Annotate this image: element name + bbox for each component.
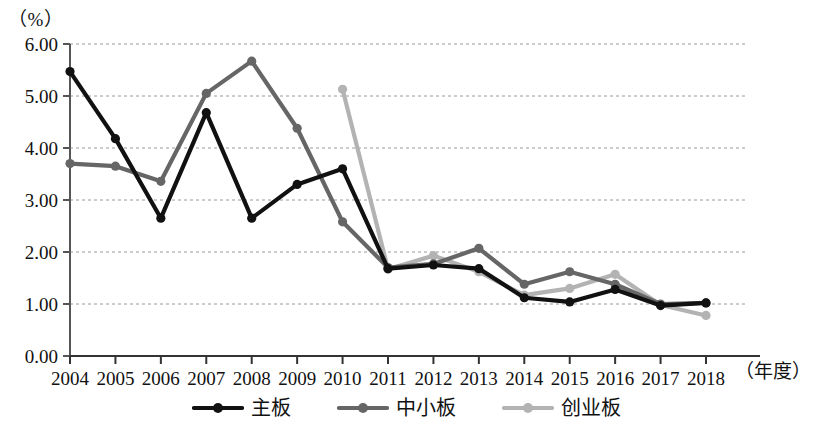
data-point-marker: [293, 124, 302, 133]
x-axis-title: （年度）: [735, 362, 811, 381]
y-tick-label: 4.00: [0, 139, 58, 158]
data-point-marker: [293, 180, 302, 189]
data-point-marker: [338, 85, 347, 94]
data-point-marker: [565, 267, 574, 276]
data-point-marker: [474, 264, 483, 273]
y-tick-label: 6.00: [0, 35, 58, 54]
y-tick-label: 2.00: [0, 243, 58, 262]
y-tick-marks-group: [63, 44, 70, 356]
gridlines-group: [70, 44, 748, 356]
legend-item-2[interactable]: 创业板: [502, 398, 621, 418]
data-point-marker: [429, 260, 438, 269]
plot-area: [0, 0, 813, 429]
data-point-marker: [202, 89, 211, 98]
data-point-marker: [383, 264, 392, 273]
x-tick-label: 2018: [678, 369, 734, 388]
data-point-marker: [565, 284, 574, 293]
y-tick-label: 3.00: [0, 191, 58, 210]
legend-marker-icon: [502, 400, 554, 416]
data-point-marker: [338, 164, 347, 173]
legend-marker-icon: [337, 400, 389, 416]
data-point-marker: [156, 214, 165, 223]
data-point-marker: [520, 293, 529, 302]
data-point-marker: [65, 159, 74, 168]
data-point-marker: [611, 270, 620, 279]
data-point-marker: [338, 217, 347, 226]
data-point-marker: [520, 280, 529, 289]
y-tick-label: 1.00: [0, 295, 58, 314]
data-point-marker: [202, 108, 211, 117]
data-point-marker: [65, 67, 74, 76]
data-point-marker: [565, 297, 574, 306]
data-point-marker: [247, 214, 256, 223]
legend-label: 创业板: [561, 398, 621, 418]
data-point-marker: [156, 177, 165, 186]
data-point-marker: [474, 244, 483, 253]
data-point-marker: [247, 57, 256, 66]
legend-label: 主板: [251, 398, 291, 418]
legend-item-0[interactable]: 主板: [192, 398, 291, 418]
data-point-marker: [701, 311, 710, 320]
data-point-marker: [701, 298, 710, 307]
x-tick-marks-group: [70, 356, 706, 364]
line-chart: （%） 0.001.002.003.004.005.006.00 2004200…: [0, 0, 813, 429]
data-point-marker: [429, 251, 438, 260]
legend-item-1[interactable]: 中小板: [337, 398, 456, 418]
legend-label: 中小板: [396, 398, 456, 418]
data-point-marker: [656, 301, 665, 310]
y-tick-label: 0.00: [0, 347, 58, 366]
data-point-marker: [611, 285, 620, 294]
data-point-marker: [111, 134, 120, 143]
data-point-marker: [111, 162, 120, 171]
chart-legend: 主板中小板创业板: [0, 398, 813, 418]
y-tick-label: 5.00: [0, 87, 58, 106]
legend-marker-icon: [192, 400, 244, 416]
